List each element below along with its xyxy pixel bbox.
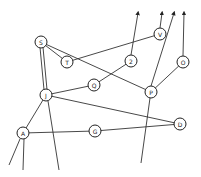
node-D: D (174, 118, 186, 130)
node-label: G (93, 128, 98, 135)
edges-layer (23, 34, 183, 133)
node-label: J (44, 92, 47, 100)
node-label: 2 (129, 58, 133, 65)
node-O: O (177, 56, 189, 68)
edge-J-Q (46, 85, 94, 95)
node-label: T (64, 59, 69, 66)
dangling-lines-layer (9, 98, 150, 170)
edge-J-A (23, 95, 46, 133)
edge-J-D (46, 95, 180, 124)
node-P: P (145, 86, 157, 98)
edge-G-D (95, 124, 180, 131)
edge-S-J (40, 42, 45, 95)
dangling-line-from-J-2 (48, 101, 59, 170)
arrow-up-from-O (183, 13, 184, 56)
graph-diagram: ST2VOQJPAGD (0, 0, 201, 177)
edge-T-V (67, 34, 160, 62)
node-label: P (149, 89, 153, 96)
arrows-layer (131, 13, 184, 86)
node-V: V (154, 28, 166, 40)
node-label: D (178, 121, 183, 128)
dangling-line-from-P-3 (141, 98, 150, 163)
edge-A-G (23, 131, 95, 133)
node-Q: Q (88, 79, 100, 91)
edge-Q-2 (94, 61, 131, 85)
arrow-up-from-V (160, 13, 162, 28)
node-G: G (89, 125, 101, 137)
node-2: 2 (125, 55, 137, 67)
node-label: Q (92, 82, 97, 89)
arrow-up-from-2 (131, 13, 138, 55)
dangling-line-from-A-0 (9, 139, 20, 165)
node-S: S (35, 36, 47, 48)
node-T: T (61, 56, 73, 68)
node-A: A (17, 127, 29, 139)
arrow-up-from-P (151, 13, 174, 86)
node-label: O (181, 59, 186, 66)
edge-S-J-second (43, 42, 48, 95)
nodes-layer: ST2VOQJPAGD (17, 28, 189, 139)
node-J: J (40, 89, 52, 101)
node-label: S (39, 39, 43, 46)
edge-P-O (151, 62, 183, 92)
dangling-line-from-A-1 (23, 139, 24, 170)
